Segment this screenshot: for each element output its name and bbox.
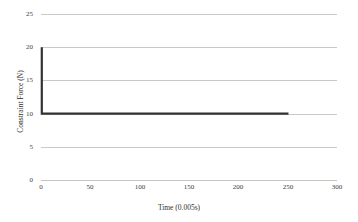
y-tick-label-25: 25 xyxy=(3,10,33,18)
x-tick-label-50: 50 xyxy=(75,183,105,192)
y-tick-label-20: 20 xyxy=(3,43,33,51)
x-tick-label-200: 200 xyxy=(223,183,253,192)
x-tick-label-250: 250 xyxy=(273,183,303,192)
x-tick-label-100: 100 xyxy=(125,183,155,192)
x-axis-ticks: 0 50 100 150 200 250 300 xyxy=(0,183,358,197)
x-tick-label-150: 150 xyxy=(174,183,204,192)
x-tick-label-0: 0 xyxy=(26,183,56,192)
x-tick-label-300: 300 xyxy=(322,183,352,192)
plot-area xyxy=(41,14,337,180)
x-axis-line xyxy=(41,180,337,181)
y-axis-title: Constraint Force (N) xyxy=(16,52,25,152)
x-axis-title: Time (0.005s) xyxy=(0,203,358,212)
series-line xyxy=(42,47,289,113)
chart-container: 25 20 15 10 5 0 0 50 100 150 200 250 300… xyxy=(0,0,358,222)
series-constraint-force xyxy=(41,14,337,180)
